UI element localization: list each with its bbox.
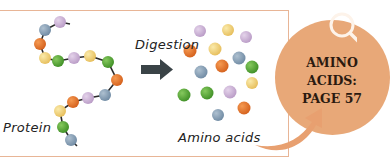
- callout-line-1: AMINO: [292, 54, 372, 72]
- callout-line-3: PAGE 57: [292, 90, 372, 108]
- callout-text: AMINO ACIDS: PAGE 57: [292, 54, 372, 108]
- curved-arrow-icon: [255, 108, 322, 150]
- callout-line-2: ACIDS:: [292, 72, 372, 90]
- protein-label: Protein: [3, 120, 51, 135]
- amino-acids-label: Amino acids: [178, 130, 261, 145]
- magnifier-icon: [331, 14, 357, 41]
- digestion-label: Digestion: [135, 37, 199, 52]
